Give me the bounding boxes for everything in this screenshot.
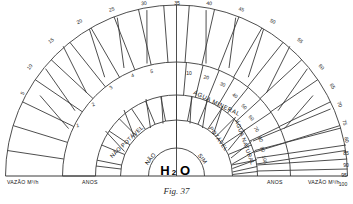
bottom-axis-labels: VAZÃO M³/h ANOS ANOS VAZÃO M³/h <box>7 179 340 185</box>
outer-div-85 <box>271 80 318 112</box>
outer-label-50: 50 <box>269 17 277 25</box>
outer-div-10 <box>13 126 67 143</box>
outer-div-5 <box>7 151 63 160</box>
radial-classification-diagram: 5 10 15 20 25 30 35 40 45 50 55 60 65 70… <box>0 0 353 204</box>
outer-div-70 <box>234 28 263 77</box>
inner-label-70: 70 <box>253 125 261 133</box>
axis-label-vazao-right: VAZÃO M³/h <box>308 179 340 185</box>
outer-label-70: 70 <box>336 100 344 108</box>
outer-spoke-90 <box>258 169 348 171</box>
outer-label-65: 65 <box>329 82 337 90</box>
outer-label-45: 45 <box>238 5 245 12</box>
inner-label-2: 2 <box>91 101 96 108</box>
outer-spoke-70 <box>253 109 331 141</box>
inner-div-70 <box>216 119 234 137</box>
outer-div-50 <box>164 5 168 62</box>
outer-label-80: 80 <box>344 136 351 143</box>
inner-div-40 <box>187 97 192 122</box>
outer-label-60: 60 <box>317 63 325 71</box>
h2o-H: H <box>160 163 169 178</box>
label-agua-natural: ÁGUA NATURAL <box>234 119 256 166</box>
figure-caption: Fig. 37 <box>0 186 353 196</box>
outer-div-60 <box>202 9 215 65</box>
outer-div-30 <box>70 42 106 87</box>
outer-div-80 <box>260 60 302 99</box>
inner-div-1 <box>97 160 122 165</box>
inner-label-3: 3 <box>108 84 114 91</box>
axis-label-anos-left: ANOS <box>82 179 98 185</box>
outer-label-5: 5 <box>19 91 26 96</box>
axis-label-anos-right: ANOS <box>267 179 283 185</box>
inner-label-40: 40 <box>231 91 239 99</box>
outer-label-10: 10 <box>25 63 33 71</box>
figure-container: 5 10 15 20 25 30 35 40 45 50 55 60 65 70… <box>0 0 353 204</box>
inner-label-10: 10 <box>186 70 192 76</box>
outer-label-95: 95 <box>341 172 347 178</box>
inner-label-60: 60 <box>247 114 255 122</box>
inner-label-30: 30 <box>219 80 227 88</box>
outer-spoke-55 <box>267 46 290 93</box>
inner-spoke-100 <box>233 172 258 175</box>
outer-div-20 <box>35 80 82 112</box>
center-formula: H 2 O <box>160 163 190 178</box>
outer-label-90: 90 <box>343 162 349 168</box>
outer-div-75 <box>248 42 284 87</box>
outer-label-35: 35 <box>174 0 180 6</box>
outer-div-35 <box>91 28 120 77</box>
inner-label-4: 4 <box>130 72 135 79</box>
outer-div-40 <box>114 17 135 70</box>
inner-label-1: 1 <box>76 122 80 128</box>
outer-spoke-15 <box>63 46 86 93</box>
axis-label-vazao-left: VAZÃO M³/h <box>7 179 39 185</box>
outer-label-40: 40 <box>206 0 212 6</box>
inner-div-50 <box>198 101 208 124</box>
outer-label-30: 30 <box>141 0 147 6</box>
inner-label-50: 50 <box>240 102 248 110</box>
inner-label-5: 5 <box>150 68 154 74</box>
outer-tick-labels: 5 10 15 20 25 30 35 40 45 50 55 60 65 70… <box>19 0 351 187</box>
mid-div-9 <box>254 143 286 153</box>
outer-label-25: 25 <box>108 5 115 12</box>
h2o-sub2: 2 <box>172 168 177 177</box>
mid-div-1 <box>184 62 187 95</box>
label-potavel: POTÁVEL <box>208 125 229 152</box>
outer-label-55: 55 <box>296 36 304 44</box>
inner-spoke-1 <box>96 166 121 169</box>
inner-label-80: 80 <box>257 135 265 143</box>
label-nao: NÃO <box>144 151 157 165</box>
inner-div-10 <box>146 101 156 124</box>
outer-div-25 <box>51 60 93 99</box>
outer-div-45 <box>138 9 151 65</box>
outer-label-20: 20 <box>75 17 83 25</box>
outer-div-65 <box>218 17 239 70</box>
outer-label-15: 15 <box>47 36 55 44</box>
label-nao-potavel: NÃO POTÁVEL <box>109 124 145 159</box>
outer-spoke-45 <box>229 18 236 68</box>
outer-label-75: 75 <box>341 119 348 126</box>
outer-div-95 <box>285 126 339 143</box>
inner-label-20: 20 <box>203 74 210 81</box>
inner-div-20 <box>161 97 166 122</box>
outer-spoke-25 <box>117 18 124 68</box>
outer-div-55 <box>185 5 189 62</box>
outer-spoke-75 <box>255 128 341 151</box>
h2o-O: O <box>180 163 190 178</box>
